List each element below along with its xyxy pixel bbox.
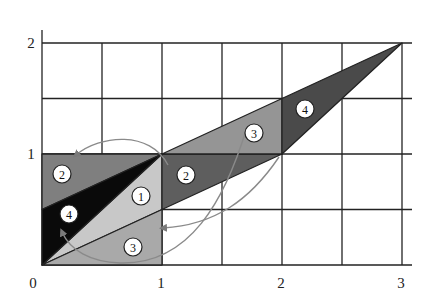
svg-text:1: 1	[138, 190, 144, 204]
svg-text:4: 4	[302, 103, 308, 117]
x-tick-2: 2	[277, 275, 285, 291]
label-region-1: 1	[132, 187, 150, 205]
transformation-diagram: 1 2 3 4 2 3 4 0 1 2 3 1	[0, 0, 438, 301]
label-region-2-left: 2	[53, 165, 71, 183]
svg-text:4: 4	[66, 208, 72, 222]
x-tick-3: 3	[397, 275, 405, 291]
label-region-3-left: 3	[124, 238, 142, 256]
label-region-4-left: 4	[60, 205, 78, 223]
label-region-4-moved: 4	[296, 100, 314, 118]
svg-text:2: 2	[183, 169, 189, 183]
x-tick-0: 0	[29, 275, 37, 291]
label-region-3-moved: 3	[245, 124, 263, 142]
y-tick-1: 1	[27, 146, 35, 162]
svg-text:2: 2	[59, 168, 65, 182]
svg-text:3: 3	[130, 241, 136, 255]
x-tick-1: 1	[157, 275, 165, 291]
svg-text:3: 3	[251, 127, 257, 141]
y-tick-2: 2	[27, 35, 35, 51]
label-region-2-moved: 2	[177, 166, 195, 184]
